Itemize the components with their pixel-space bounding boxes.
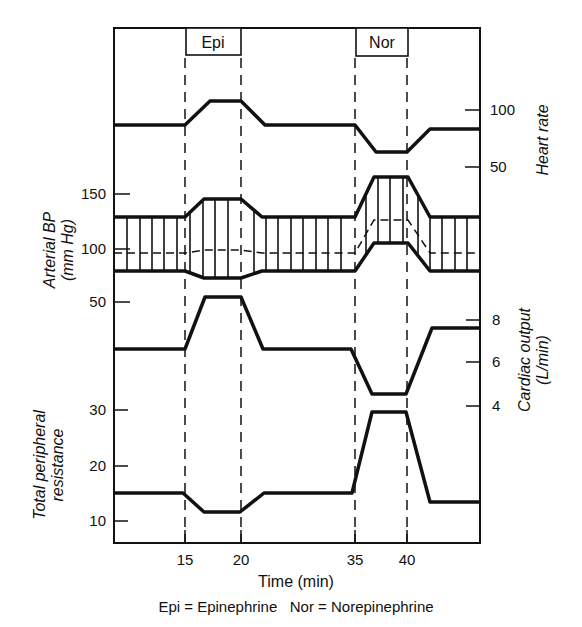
x-tick-15: 15	[177, 551, 194, 568]
tpr-title-line1: Total peripheral	[31, 410, 48, 520]
hemodynamics-chart: Epi Nor	[0, 0, 582, 627]
co-title-line1: Cardiac output	[516, 307, 533, 412]
tpr-tick-10: 10	[89, 512, 106, 529]
x-tick-20: 20	[233, 551, 250, 568]
x-tick-40: 40	[399, 551, 416, 568]
plot-frame	[114, 28, 480, 543]
epi-marker: Epi	[186, 28, 241, 55]
figure-caption: Epi = Epinephrine Nor = Norepinephrine	[158, 598, 433, 615]
bp-title-line1: Arterial BP	[41, 211, 58, 289]
tpr-curve	[114, 412, 480, 512]
bp-title-line2: (mm Hg)	[59, 219, 76, 281]
cardiac-output-title: Cardiac output (L/min)	[516, 307, 551, 412]
heart-rate-curve	[114, 101, 480, 152]
co-tick-6: 6	[492, 353, 500, 370]
x-axis-ticks	[185, 530, 407, 543]
nor-box-label: Nor	[369, 34, 395, 51]
tpr-title: Total peripheral resistance	[31, 410, 66, 520]
bp-tick-50: 50	[89, 293, 106, 310]
x-axis-title: Time (min)	[258, 573, 334, 590]
systolic-curve	[114, 177, 480, 217]
tpr-tick-30: 30	[89, 401, 106, 418]
hr-tick-100: 100	[490, 101, 515, 118]
drug-period-lines	[185, 58, 407, 543]
co-title-line2: (L/min)	[534, 335, 551, 385]
mean-bp-curve	[114, 220, 480, 253]
hr-tick-50: 50	[490, 158, 507, 175]
co-tick-8: 8	[492, 311, 500, 328]
tpr-tick-20: 20	[89, 457, 106, 474]
bp-tick-150: 150	[81, 185, 106, 202]
heart-rate-title: Heart rate	[534, 104, 551, 175]
bp-tick-100: 100	[81, 240, 106, 257]
diastolic-curve	[114, 243, 480, 278]
tpr-title-line2: resistance	[49, 428, 66, 501]
cardiac-output-curve	[114, 297, 480, 394]
arterial-bp-title: Arterial BP (mm Hg)	[41, 211, 76, 289]
arterial-bp-band	[114, 170, 480, 290]
nor-marker: Nor	[356, 28, 408, 56]
co-tick-4: 4	[492, 397, 500, 414]
x-tick-35: 35	[347, 551, 364, 568]
epi-box-label: Epi	[201, 34, 224, 51]
